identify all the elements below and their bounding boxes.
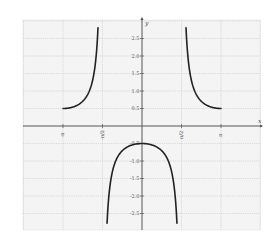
y-tick-label: 1.5 (132, 70, 140, 76)
y-tick-label: 2.5 (132, 35, 140, 41)
y-tick-label: 2.0 (132, 53, 140, 59)
y-tick-label: -2.0 (130, 193, 140, 199)
function-plot: xy -π-π/2π/2π2.52.01.51.00.5-0.5-1.0-1.5… (0, 0, 267, 236)
x-tick-label: -π (59, 132, 65, 138)
x-axis-label: x (258, 117, 262, 124)
y-tick-label: -1.5 (130, 175, 140, 181)
y-tick-label: -2.5 (130, 210, 140, 216)
x-tick-label: π/2 (178, 131, 184, 139)
y-axis-label: y (144, 19, 149, 27)
y-tick-label: 0.5 (132, 105, 140, 111)
y-tick-label: 1.0 (132, 88, 140, 94)
y-axis-arrow-icon (141, 17, 144, 20)
y-tick-label: -1.0 (130, 158, 140, 164)
x-tick-label: -π/2 (99, 130, 105, 140)
x-axis-arrow-icon (260, 125, 263, 128)
